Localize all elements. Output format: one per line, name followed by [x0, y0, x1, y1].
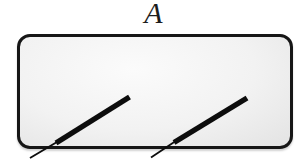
left-stick-thin-segment [30, 142, 57, 158]
sticks-overlay [0, 0, 307, 165]
right-stick-thin-segment [151, 142, 175, 158]
left-stick-thick-segment [56, 97, 130, 143]
figure: A [0, 0, 307, 165]
right-stick-thick-segment [174, 98, 247, 143]
